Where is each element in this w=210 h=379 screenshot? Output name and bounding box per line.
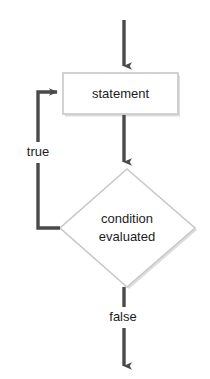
flowchart-diagram: statement condition evaluated true false bbox=[0, 0, 210, 379]
condition-node: condition evaluated bbox=[60, 169, 197, 289]
false-label: false bbox=[109, 309, 136, 324]
flowchart-canvas: statement condition evaluated true false bbox=[0, 0, 210, 379]
condition-diamond bbox=[60, 169, 195, 287]
true-label: true bbox=[27, 144, 49, 159]
condition-label-line2: evaluated bbox=[99, 229, 155, 244]
condition-label-line1: condition bbox=[101, 211, 153, 226]
statement-node: statement bbox=[63, 73, 180, 117]
statement-label: statement bbox=[92, 86, 149, 101]
